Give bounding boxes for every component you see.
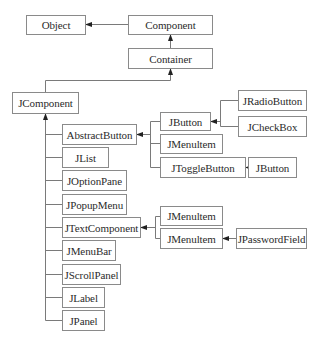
node-label: JTextComponent: [65, 222, 139, 234]
node-label: JMenuBar: [66, 245, 111, 257]
node-jmenubar: JMenuBar: [62, 240, 116, 261]
node-label: JLabel: [69, 292, 98, 304]
node-label: JList: [75, 152, 96, 164]
node-container: Container: [128, 48, 213, 69]
node-label: Component: [145, 19, 195, 31]
node-joptionpane: JOptionPane: [62, 170, 127, 191]
node-label: JMenultem: [167, 233, 216, 245]
node-jcheckbox: JCheckBox: [238, 116, 307, 137]
node-jmenuitem: JMenultem: [160, 134, 223, 154]
node-label: Object: [42, 19, 71, 31]
node-label: JMenultem: [167, 138, 216, 150]
node-label: JScrollPanel: [65, 269, 119, 281]
node-jradiobutton: JRadioButton: [238, 90, 307, 111]
node-label: JRadioButton: [243, 95, 302, 107]
node-label: JPasswordField: [238, 233, 306, 245]
node-label: JMenultem: [167, 210, 216, 222]
node-label: JButton: [169, 116, 203, 128]
node-label: JCheckBox: [248, 121, 298, 133]
node-jtogglebutton: JToggleButton: [160, 157, 246, 178]
node-jtextcomponent: JTextComponent: [62, 217, 141, 238]
node-jpanel: JPanel: [62, 310, 105, 331]
node-jmenuitem-text-2: JMenultem: [160, 228, 223, 249]
node-label: JOptionPane: [67, 175, 122, 187]
node-jcomponent: JComponent: [12, 92, 79, 114]
node-component: Component: [128, 15, 213, 35]
node-label: JPanel: [69, 315, 97, 327]
node-jlabel: JLabel: [62, 287, 105, 308]
class-hierarchy-diagram: Object Component Container JComponent Ab…: [0, 0, 317, 337]
node-jbutton-toggle-child: JButton: [248, 157, 297, 178]
node-object: Object: [26, 15, 86, 35]
node-jpopupmenu: JPopupMenu: [62, 194, 127, 215]
node-jpasswordfield: JPasswordField: [236, 228, 307, 249]
node-label: JButton: [256, 162, 290, 174]
node-label: JComponent: [18, 97, 73, 109]
node-jlist: JList: [62, 147, 109, 168]
node-jbutton: JButton: [160, 112, 211, 131]
node-label: AbstractButton: [67, 129, 133, 141]
node-jmenuitem-text-1: JMenultem: [160, 206, 223, 226]
node-label: JToggleButton: [171, 162, 234, 174]
node-label: JPopupMenu: [66, 199, 123, 211]
node-label: Container: [149, 53, 191, 65]
node-jscrollpanel: JScrollPanel: [62, 264, 121, 285]
node-abstractbutton: AbstractButton: [62, 124, 137, 145]
